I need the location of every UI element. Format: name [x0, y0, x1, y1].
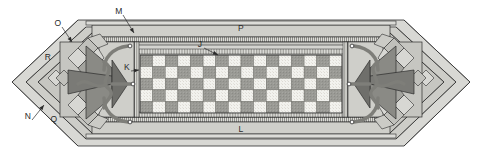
- checker-cell: [304, 90, 317, 102]
- checker-cell: [203, 101, 216, 113]
- reference-label-L: L: [239, 124, 244, 134]
- left-node-top: [128, 44, 132, 48]
- checker-cell: [329, 90, 342, 102]
- bottom-outer-rail: [86, 134, 396, 138]
- checker-cell: [216, 101, 229, 113]
- reference-label-O: O: [55, 18, 62, 28]
- checker-cell: [228, 67, 241, 79]
- checker-cell: [254, 67, 267, 79]
- checker-cell: [241, 101, 254, 113]
- figure-canvas: JKLMNOPQR: [0, 0, 482, 163]
- checker-cell: [329, 101, 342, 113]
- checker-cell: [329, 78, 342, 90]
- checker-cell: [329, 55, 342, 67]
- checker-cell: [178, 78, 191, 90]
- reference-label-Q: Q: [51, 114, 58, 124]
- reference-label-N: N: [25, 111, 31, 121]
- left-inner-rail-K: [134, 42, 139, 117]
- checker-cell: [317, 55, 330, 67]
- checker-cell: [292, 78, 305, 90]
- checker-cell: [178, 101, 191, 113]
- checker-cell: [254, 101, 267, 113]
- checkerboard-field-J: [140, 55, 342, 113]
- checker-cell: [279, 78, 292, 90]
- checker-cell: [266, 78, 279, 90]
- checker-cell: [254, 55, 267, 67]
- checker-cell: [140, 67, 153, 79]
- checker-cell: [203, 55, 216, 67]
- checker-cell: [153, 101, 166, 113]
- checker-cell: [292, 67, 305, 79]
- checker-cell: [140, 55, 153, 67]
- checker-cell: [165, 90, 178, 102]
- checker-cell: [153, 55, 166, 67]
- right-node-top: [350, 44, 354, 48]
- reference-label-P: P: [238, 23, 244, 33]
- checker-cell: [165, 78, 178, 90]
- checker-cell: [241, 67, 254, 79]
- checker-cell: [165, 67, 178, 79]
- checker-cell: [191, 67, 204, 79]
- checker-cell: [153, 90, 166, 102]
- checker-cell: [304, 101, 317, 113]
- checker-cell: [216, 90, 229, 102]
- checker-cell: [304, 67, 317, 79]
- checker-cell: [203, 90, 216, 102]
- checker-cell: [140, 101, 153, 113]
- checker-cell: [165, 55, 178, 67]
- reference-label-M: M: [115, 6, 122, 16]
- checker-cell: [254, 90, 267, 102]
- board-top-hatch: [138, 49, 344, 54]
- checker-cell: [266, 90, 279, 102]
- left-ornament: [48, 34, 135, 129]
- checker-cell: [266, 55, 279, 67]
- checker-cell: [191, 78, 204, 90]
- panel-drawing: JKLMNOPQR: [0, 0, 482, 163]
- checker-cell: [317, 90, 330, 102]
- checker-cell: [241, 55, 254, 67]
- checker-cell: [228, 55, 241, 67]
- checker-cell: [266, 101, 279, 113]
- checker-cell: [304, 78, 317, 90]
- right-node-bottom: [350, 120, 354, 124]
- checker-cell: [140, 90, 153, 102]
- checker-cell: [216, 67, 229, 79]
- reference-label-R: R: [45, 52, 51, 62]
- checker-cell: [241, 78, 254, 90]
- checker-cell: [178, 90, 191, 102]
- checker-cell: [191, 55, 204, 67]
- right-inner-rail: [343, 42, 348, 117]
- top-hatch-strip-M: [92, 37, 390, 42]
- checker-cell: [292, 101, 305, 113]
- checker-cell: [329, 67, 342, 79]
- checker-cell: [203, 78, 216, 90]
- checker-cell: [304, 55, 317, 67]
- checker-cell: [153, 78, 166, 90]
- left-node-bottom: [128, 120, 132, 124]
- checker-cell: [191, 90, 204, 102]
- right-ornament: [347, 34, 434, 129]
- checker-cell: [317, 101, 330, 113]
- checker-cell: [203, 67, 216, 79]
- checker-cell: [140, 78, 153, 90]
- checker-cell: [216, 55, 229, 67]
- checker-cell: [228, 101, 241, 113]
- checker-cell: [317, 67, 330, 79]
- checker-cell: [165, 101, 178, 113]
- checker-cell: [292, 55, 305, 67]
- checker-cell: [228, 78, 241, 90]
- checker-cell: [178, 55, 191, 67]
- reference-label-K: K: [124, 62, 130, 72]
- checker-cell: [216, 78, 229, 90]
- bottom-hatch-strip: [92, 117, 390, 122]
- checker-cell: [178, 67, 191, 79]
- checker-cell: [279, 90, 292, 102]
- checker-cell: [241, 90, 254, 102]
- checker-cell: [266, 67, 279, 79]
- checker-cell: [191, 101, 204, 113]
- right-node-mid: [347, 82, 351, 86]
- checker-cell: [279, 101, 292, 113]
- reference-label-J: J: [198, 39, 202, 49]
- checker-cell: [279, 55, 292, 67]
- checker-cell: [153, 67, 166, 79]
